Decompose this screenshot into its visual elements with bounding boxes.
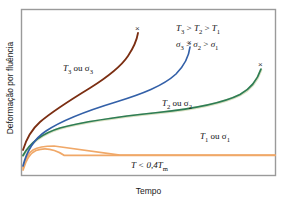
annotation-stress-line: σ3 > σ2 > σ1	[176, 38, 220, 54]
y-axis-label: Deformação por fluência	[5, 42, 15, 135]
curve-label-t1: T1 ou σ1	[200, 131, 230, 143]
curve-label-t2: T2 ou σ2	[162, 98, 192, 110]
rupture-marker-t3: ×	[135, 25, 140, 33]
x-axis-label: Tempo	[0, 186, 297, 196]
plot-area	[0, 0, 297, 204]
creep-curve-figure: × × × T3 > T2 > T1 σ3 > σ2 > σ1 T3 ou σ3…	[0, 0, 297, 204]
y-axis-label-wrap: Deformação por fluência	[0, 0, 20, 176]
curve-label-low-temperature: T < 0,4Tm	[131, 160, 168, 172]
annotation-temperature-line: T3 > T2 > T1	[176, 22, 220, 38]
rupture-marker-t1: ×	[258, 61, 263, 69]
plot-frame	[22, 10, 276, 176]
annotation-inequalities: T3 > T2 > T1 σ3 > σ2 > σ1	[176, 22, 220, 54]
curve-label-t3: T3 ou σ3	[63, 63, 93, 75]
